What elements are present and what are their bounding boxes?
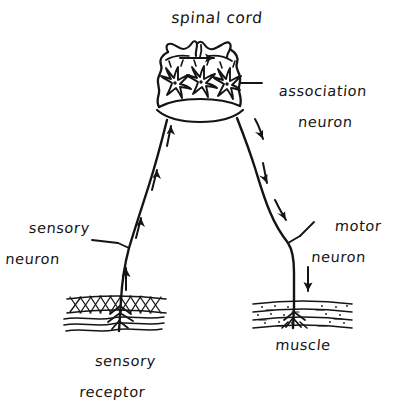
label-sensory-neuron-line1: sensory (28, 220, 90, 236)
muscle-shape (253, 301, 352, 328)
label-sensory-receptor: sensory receptor (44, 338, 182, 404)
sensory-arrow-1-icon (167, 126, 176, 146)
label-motor-neuron-line1: motor (334, 218, 382, 234)
motor-arrow-3-icon (275, 200, 286, 220)
label-motor-neuron-line2: neuron (311, 250, 400, 266)
association-neuron-3 (213, 68, 241, 99)
label-association-neuron-line1: association (278, 83, 368, 99)
label-sensory-neuron-line2: neuron (5, 252, 116, 268)
label-sensory-receptor-line2: receptor (47, 385, 178, 401)
label-spinal-cord: spinal cord (151, 10, 282, 27)
receptor-nerve-endings (108, 300, 133, 331)
label-association-neuron: association neuron (252, 68, 400, 162)
association-neuron-1 (161, 67, 191, 98)
sensory-flow-arrows (122, 126, 176, 290)
association-neuron-2 (187, 66, 217, 97)
sensory-receptor-shape (64, 296, 166, 331)
label-muscle: muscle (242, 338, 363, 354)
label-sensory-neuron: sensory neuron (2, 205, 120, 299)
label-association-neuron-line2: neuron (255, 115, 396, 131)
leader-line-motor-neuron (300, 222, 314, 236)
label-motor-neuron: motor neuron (308, 203, 400, 297)
neuron-dendrite-spurs (169, 59, 235, 68)
label-sensory-receptor-line1: sensory (94, 353, 156, 369)
muscle-speckles (257, 305, 348, 326)
motor-arrow-2-icon (259, 163, 268, 183)
